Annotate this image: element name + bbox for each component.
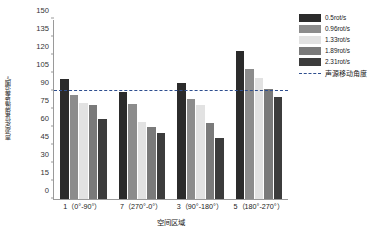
legend-item[interactable]: 2.31rot/s	[299, 57, 383, 67]
x-axis-tick-label: 1（0°-90°）	[53, 201, 112, 211]
bar-group	[230, 20, 289, 199]
bar[interactable]	[98, 119, 107, 199]
bar[interactable]	[79, 103, 88, 199]
bar[interactable]	[196, 105, 205, 199]
legend-item[interactable]: 1.33rot/s	[299, 35, 383, 45]
x-axis-tick-label: 5（180°-270°）	[229, 201, 288, 211]
bar[interactable]	[255, 78, 264, 199]
y-axis-tick-label: 105	[14, 60, 54, 69]
bar[interactable]	[128, 104, 137, 199]
y-axis-tick-mark	[51, 18, 54, 19]
legend-item[interactable]: 0.5rot/s	[299, 13, 383, 23]
y-axis-tick-label: 120	[14, 42, 54, 51]
bar[interactable]	[119, 92, 128, 199]
legend-swatch-icon	[299, 47, 321, 55]
legend-item[interactable]: 声源移动角度	[299, 68, 383, 78]
bar[interactable]	[60, 79, 69, 199]
bar-group	[113, 20, 172, 199]
y-axis-tick-label: 15	[14, 168, 54, 177]
bar[interactable]	[138, 122, 147, 199]
x-axis-tick-label: 7（270°-0°）	[112, 201, 171, 211]
bar-group	[54, 20, 113, 199]
legend-label: 声源移动角度	[325, 70, 367, 77]
legend-label: 2.31rot/s	[325, 59, 350, 65]
legend-item[interactable]: 1.89rot/s	[299, 46, 383, 56]
bar[interactable]	[89, 105, 98, 199]
bar-groups	[54, 20, 288, 199]
y-axis-tick-label: 135	[14, 24, 54, 33]
legend-label: 0.96rot/s	[325, 26, 350, 32]
y-axis-tick-label: 0	[14, 186, 54, 195]
legend-swatch-icon	[299, 14, 321, 22]
bar[interactable]	[147, 127, 156, 199]
legend-swatch-icon	[299, 36, 321, 44]
bar[interactable]	[157, 133, 166, 199]
legend-dash-icon	[299, 73, 321, 74]
legend-label: 0.5rot/s	[325, 15, 346, 21]
bar[interactable]	[236, 51, 245, 199]
y-axis-tick-label: 60	[14, 114, 54, 123]
bar[interactable]	[215, 138, 224, 199]
bar[interactable]	[70, 95, 79, 199]
y-axis-tick-label: 75	[14, 96, 54, 105]
bar[interactable]	[245, 69, 254, 199]
y-axis-tick-label: 30	[14, 150, 54, 159]
legend-swatch-icon	[299, 25, 321, 33]
legend-label: 1.89rot/s	[325, 48, 350, 54]
x-axis-title: 空间区域	[53, 216, 288, 227]
chart-legend: 0.5rot/s0.96rot/s1.33rot/s1.89rot/s2.31r…	[299, 13, 383, 79]
bar-chart: 声源定位角度误差范围/° 0153045607590105120135150 1…	[0, 0, 384, 250]
bar-group	[171, 20, 230, 199]
y-axis-tick-label: 45	[14, 132, 54, 141]
x-axis-tick-label: 3（90°-180°）	[171, 201, 230, 211]
bar[interactable]	[177, 83, 186, 199]
bar[interactable]	[206, 123, 215, 199]
legend-label: 1.33rot/s	[325, 37, 350, 43]
legend-swatch-icon	[299, 58, 321, 66]
legend-item[interactable]: 0.96rot/s	[299, 24, 383, 34]
y-axis-tick-label: 150	[14, 6, 54, 15]
plot-area: 0153045607590105120135150	[53, 20, 288, 200]
x-axis-tick-labels: 1（0°-90°）7（270°-0°）3（90°-180°）5（180°-270…	[53, 201, 288, 211]
y-axis-tick-label: 90	[14, 78, 54, 87]
bar[interactable]	[274, 97, 283, 199]
bar[interactable]	[264, 89, 273, 199]
bar[interactable]	[187, 99, 196, 199]
reference-line	[54, 90, 288, 91]
